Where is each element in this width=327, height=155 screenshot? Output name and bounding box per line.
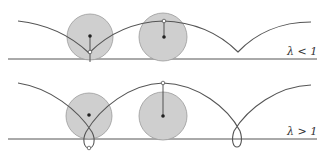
label-lambda-less-than-1: λ < 1 <box>287 45 317 58</box>
panel-top <box>8 13 317 62</box>
tracing-point <box>87 146 91 150</box>
disk-center <box>162 35 166 39</box>
tracing-point <box>161 81 165 85</box>
disk-center <box>87 113 91 117</box>
label-lambda-greater-than-1: λ > 1 <box>287 125 317 138</box>
tracing-point <box>88 50 92 54</box>
tracing-point <box>162 19 166 23</box>
trochoid-diagram <box>0 0 327 155</box>
disk-center <box>88 34 92 38</box>
panel-bottom <box>8 81 317 150</box>
disk-center <box>161 114 165 118</box>
